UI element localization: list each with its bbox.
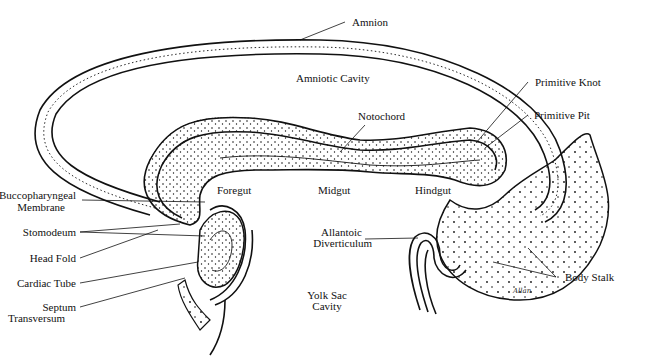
label-amnion: Amnion bbox=[352, 16, 389, 28]
label-buccopharyngeal: Buccopharyngeal bbox=[0, 189, 76, 201]
label-amniotic-cavity: Amniotic Cavity bbox=[296, 72, 370, 84]
label-primitive-pit: Primitive Pit bbox=[534, 109, 590, 121]
label-primitive-knot: Primitive Knot bbox=[535, 76, 601, 88]
label-membrane: Membrane bbox=[17, 201, 65, 213]
label-yolk-cavity: Cavity bbox=[312, 300, 342, 312]
embryo-diagram: Amnion Amniotic Cavity Notochord Primiti… bbox=[0, 0, 645, 360]
label-body-stalk: Body Stalk bbox=[565, 271, 615, 283]
label-diverticulum: Diverticulum bbox=[313, 237, 372, 249]
label-stomodeum: Stomodeum bbox=[23, 226, 77, 238]
label-transversum: Transversum bbox=[8, 312, 65, 324]
label-head-fold: Head Fold bbox=[30, 252, 77, 264]
label-notochord: Notochord bbox=[358, 110, 406, 122]
cardiac-region bbox=[178, 206, 252, 355]
diagram-canvas: Amnion Amniotic Cavity Notochord Primiti… bbox=[0, 0, 645, 360]
label-foregut: Foregut bbox=[217, 184, 251, 196]
label-hindgut: Hindgut bbox=[415, 184, 451, 196]
label-midgut: Midgut bbox=[318, 184, 350, 196]
artist-signature: Allan bbox=[512, 287, 532, 295]
label-cardiac-tube: Cardiac Tube bbox=[17, 277, 76, 289]
